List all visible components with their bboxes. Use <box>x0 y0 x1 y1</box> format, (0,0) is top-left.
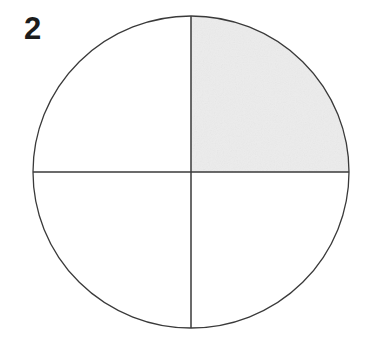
figure-canvas: 2 <box>0 0 372 341</box>
quadrant-shade-texture <box>191 16 349 172</box>
quadrant-upper-left-unshaded <box>33 16 191 172</box>
fraction-circle-graphic <box>0 0 372 341</box>
quadrant-lower-right-unshaded <box>191 172 349 328</box>
quadrant-lower-left-unshaded <box>33 172 191 328</box>
